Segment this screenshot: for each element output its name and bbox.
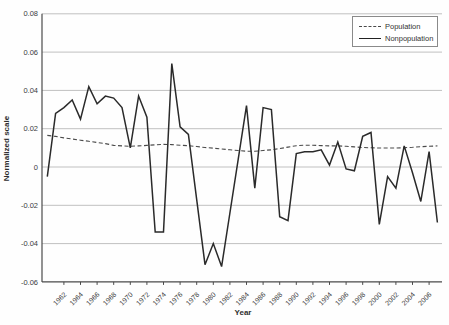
svg-text:1966: 1966 [85,291,101,307]
svg-text:1978: 1978 [184,291,200,307]
svg-text:1980: 1980 [201,291,217,307]
population-dashed-line-sample [359,26,381,27]
y-axis-title: Normalized scale [2,79,11,219]
svg-text:-0.02: -0.02 [21,201,38,210]
svg-text:0.04: 0.04 [23,86,38,95]
svg-text:1984: 1984 [234,291,250,307]
legend-item-population: Population [359,20,433,32]
axes [42,14,442,282]
legend-label-nonpopulation: Nonpopulation [385,34,433,43]
svg-text:2004: 2004 [400,291,416,307]
svg-text:1964: 1964 [68,291,84,307]
svg-text:2002: 2002 [384,291,400,307]
legend: Population Nonpopulation [352,16,438,47]
plot-svg: 0.080.060.040.020-0.02-0.04-0.0619621964… [0,0,449,325]
svg-text:0: 0 [34,163,38,172]
svg-text:-0.06: -0.06 [21,278,38,287]
svg-text:0.08: 0.08 [23,9,38,18]
svg-text:-0.04: -0.04 [21,239,38,248]
svg-text:1972: 1972 [135,291,151,307]
svg-text:1988: 1988 [267,291,283,307]
x-tick-labels: 1962196419661968197019721974197619781980… [52,282,433,307]
svg-text:1976: 1976 [168,291,184,307]
legend-item-nonpopulation: Nonpopulation [359,32,433,44]
svg-text:0.06: 0.06 [23,48,38,57]
svg-text:1968: 1968 [101,291,117,307]
nonpopulation-solid-line-sample [359,38,381,39]
legend-label-population: Population [385,22,420,31]
population-line [47,135,437,151]
nonpopulation-line [47,64,437,267]
x-axis-title: Year [193,308,293,317]
svg-text:1962: 1962 [52,291,68,307]
svg-text:1996: 1996 [334,291,350,307]
svg-text:1970: 1970 [118,291,134,307]
y-tick-labels: 0.080.060.040.020-0.02-0.04-0.06 [21,9,38,286]
svg-text:1982: 1982 [218,291,234,307]
svg-text:2000: 2000 [367,291,383,307]
svg-text:1974: 1974 [151,291,167,307]
svg-text:1990: 1990 [284,291,300,307]
svg-text:1998: 1998 [350,291,366,307]
chart: 0.080.060.040.020-0.02-0.04-0.0619621964… [0,0,449,325]
svg-text:1994: 1994 [317,291,333,307]
svg-text:0.02: 0.02 [23,124,38,133]
svg-text:2006: 2006 [417,291,433,307]
svg-text:1992: 1992 [301,291,317,307]
svg-text:1986: 1986 [251,291,267,307]
